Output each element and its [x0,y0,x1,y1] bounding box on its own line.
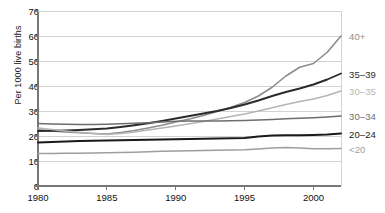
series-label-30-35: 30–35 [349,86,376,97]
series-label-40: 40+ [349,31,365,42]
series-label-20: <20 [349,143,365,154]
series-label-20-24: 20–24 [349,128,376,139]
series-label-30-34: 30–34 [349,111,376,122]
line-chart: Per 1000 live births 010203040506070 198… [0,0,385,213]
series-label-35-39: 35–39 [349,68,376,79]
series-labels: 40+35–3930–3530–3420–24<20 [0,0,385,213]
